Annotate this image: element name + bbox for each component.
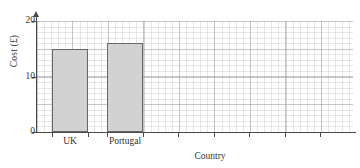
x-tick-mark-8 [285, 132, 286, 137]
y-axis-title: Cost (£) [9, 11, 19, 91]
bar-uk[interactable] [52, 49, 88, 132]
x-axis-line [36, 132, 356, 133]
x-tick-mark-7 [249, 132, 250, 137]
bar-portugal[interactable] [107, 43, 143, 132]
y-tick-label-0: 0 [13, 127, 35, 137]
x-axis-title: Country [150, 151, 270, 161]
x-tick-mark-9 [320, 132, 321, 137]
x-tick-mark-6 [214, 132, 215, 137]
x-tick-label-portugal: Portugal [95, 136, 155, 146]
x-tick-mark-5 [178, 132, 179, 137]
bar-chart-figure: 20 10 0 Cost (£) UK Portugal Country [0, 0, 360, 168]
y-axis-line [36, 15, 37, 133]
x-tick-label-uk: UK [50, 136, 90, 146]
